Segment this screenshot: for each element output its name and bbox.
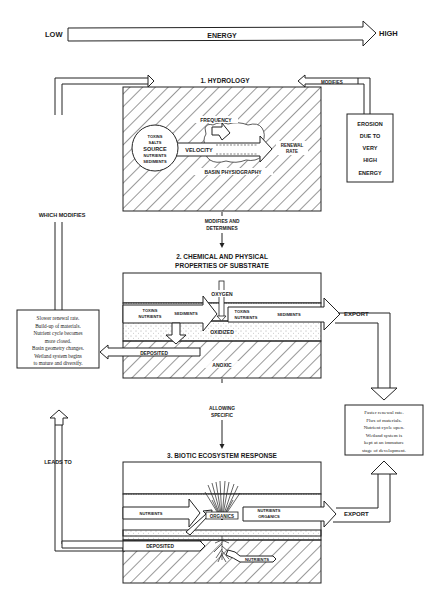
erosion-line: VERY [363,145,378,151]
source-item: TOXINS [148,134,163,139]
high-energy-line: Nutrient cycle open. [364,425,405,430]
high-energy-line: Wetland system is [366,433,402,438]
renewal-rate-label: RENEWAL [281,143,304,148]
low-energy-line: Nutrient cycle becomes [34,330,83,336]
biotic-title: 3. BIOTIC ECOSYSTEM RESPONSE [167,452,277,459]
low-energy-label: LOW [45,30,63,39]
inflow-nutrients-label: NUTRIENTS [139,314,162,319]
substrate-title-line2: PROPERTIES OF SUBSTRATE [175,262,269,269]
arrow-into-high-energy-box [371,388,397,400]
oxidized-label: OXIDIZED [210,329,234,335]
section-biotic: 3. BIOTIC ECOSYSTEM RESPONSE NUTRIENTS D… [62,452,397,583]
biotic-out-nutrients-label: NUTRIENTS [258,508,281,513]
high-energy-line: Flux of materials. [366,418,401,423]
determines-label: DETERMINES [206,226,238,231]
basin-physiography-label: BASIN PHYSIOGRAPHY [204,169,262,175]
biotic-out-organics-label: ORGANICS [258,514,280,519]
biotic-export-label: EXPORT [344,511,369,517]
outflow-toxins-label: TOXINS [235,309,250,314]
section-hydrology: 1. HYDROLOGY TOXINS SALTS SOURCE NUTRIEN… [123,77,321,211]
source-label: SOURCE [143,146,167,152]
energy-arrow-label: ENERGY [207,32,237,39]
anoxic-layer [123,341,321,378]
specific-label: SPECIFIC [211,413,234,418]
source-item: SALTS [149,140,162,145]
biotic-deposited-label: DEPOSITED [146,544,174,549]
inflow-toxins-label: TOXINS [143,308,158,313]
frequency-label: FREQUENCY [200,117,232,123]
low-energy-line: Slower renewal rate. [37,315,80,321]
which-modifies-label: WHICH MODIFIES [39,212,86,218]
root-nutrients-label: NUTRIENTS [245,557,269,562]
erosion-line: ENERGY [358,170,382,176]
low-energy-line: more closed. [45,338,72,344]
modifies-label: MODIFIES [321,80,343,85]
wetland-hydrology-diagram: LOW ENERGY HIGH WHICH MODIFIES LEADS TO … [0,0,442,605]
arrow-into-low-energy-box [50,410,68,425]
section-substrate: 2. CHEMICAL AND PHYSICAL PROPERTIES OF S… [100,253,397,400]
low-energy-line: Wetland system begins [34,353,82,359]
high-energy-label: HIGH [379,29,398,38]
oxygen-arrow [219,281,224,317]
arrow-into-hydrology [148,75,154,87]
low-energy-outcome-box: Slower renewal rate. Build-up of materia… [17,310,99,368]
low-energy-line: Basin geometry changes. [32,345,84,351]
nutrients-in-label: NUTRIENTS [140,511,163,516]
erosion-line: HIGH [363,157,377,163]
energy-scale: LOW ENERGY HIGH [45,21,398,46]
high-energy-line: Faster renewal rate. [364,410,403,415]
leads-to-label: LEADS TO [44,459,72,465]
renewal-rate-label: RATE [286,149,298,154]
biotic-air-layer [123,462,321,494]
erosion-box: EROSION DUE TO VERY HIGH ENERGY [347,114,393,182]
inflow-sediments-label: SEDIMENTS [174,311,198,316]
oxygen-label: OXYGEN [211,291,233,297]
erosion-line: EROSION [357,121,382,127]
substrate-export-label: EXPORT [344,311,369,317]
arrow-from-biotic-to-high-energy-box [371,461,397,474]
connector-hydrology-to-substrate: MODIFIES AND DETERMINES [205,212,240,248]
high-energy-line: stage of development. [362,448,406,453]
source-item: NUTRIENTS [144,153,167,158]
anoxic-label: ANOXIC [212,362,232,368]
outflow-sediments-label: SEDIMENTS [277,312,301,317]
high-energy-line: kept at an immature [364,440,405,445]
low-energy-line: Build-up of materials. [35,323,81,329]
deposited-label: DEPOSITED [140,351,168,356]
outflow-nutrients-label: NUTRIENTS [235,315,258,320]
source-item: SEDIMENTS [143,159,167,164]
organics-label: ORGANICS [210,514,234,519]
low-energy-line: to mature and diversify. [33,360,82,366]
hydrology-title: 1. HYDROLOGY [200,77,250,84]
erosion-line: DUE TO [360,133,381,139]
velocity-label: VELOCITY [185,147,213,153]
allowing-label: ALLOWING [209,406,235,411]
substrate-title-line1: 2. CHEMICAL AND PHYSICAL [176,253,268,260]
connector-substrate-to-biotic: ALLOWING SPECIFIC [209,379,235,449]
modifies-and-label: MODIFIES AND [205,219,240,224]
high-energy-outcome-box: Faster renewal rate. Flux of materials. … [345,405,423,455]
